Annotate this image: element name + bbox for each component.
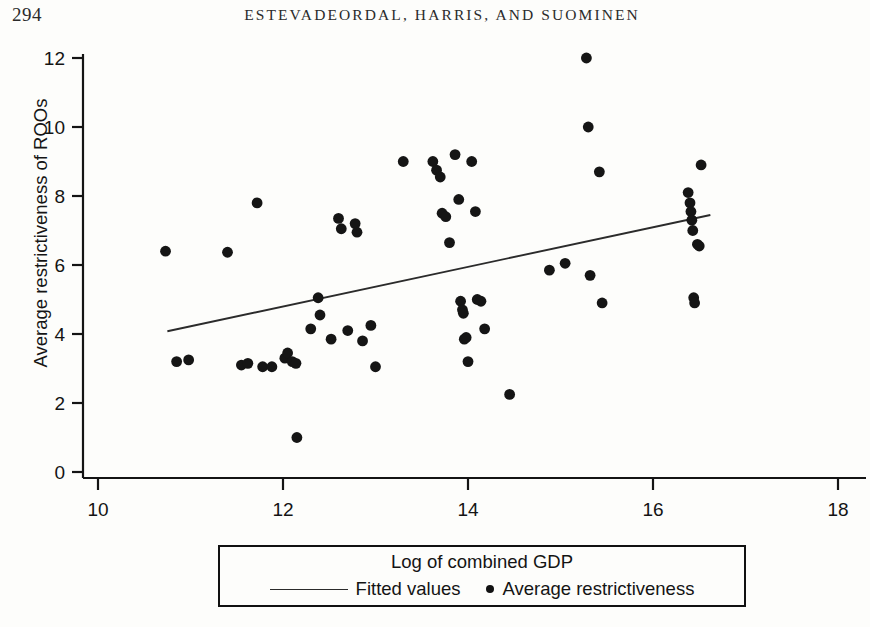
y-tick-label: 12 [44,48,65,69]
data-points-layer [160,53,706,443]
legend-entry-fitted-values: Fitted values [270,578,461,600]
scatter-point [585,270,596,281]
scatter-point [689,298,700,309]
page-header: 294 ESTEVADEORDAL, HARRIS, AND SUOMINEN [0,0,870,34]
scatter-point [470,206,481,217]
scatter-point [444,237,455,248]
y-tick-label: 4 [54,324,65,345]
y-tick-label: 8 [54,186,65,207]
scatter-point [267,361,278,372]
scatter-point [583,122,594,133]
scatter-point [686,215,697,226]
x-tick-label: 14 [457,499,479,520]
scatter-point [257,361,268,372]
legend-label-fitted-values: Fitted values [356,578,461,600]
x-tick-label: 12 [272,499,293,520]
scatter-point [370,361,381,372]
scatter-point [466,156,477,167]
scatter-point [476,296,487,307]
scatter-point [252,198,263,209]
y-tick-label: 6 [54,255,65,276]
legend-label-average-restrictiveness: Average restrictiveness [502,578,694,600]
scatter-point [544,265,555,276]
scatter-point [458,308,469,319]
scatter-point [594,166,605,177]
scatter-point [357,336,368,347]
scatter-plot-svg: 0246810121012141618 [0,30,870,530]
legend-entry-average-restrictiveness: Average restrictiveness [486,578,694,600]
scatter-point [461,332,472,343]
scatter-point [365,320,376,331]
scatter-point [581,53,592,64]
x-tick-label: 18 [827,499,848,520]
scatter-point [333,213,344,224]
scatter-point [242,358,253,369]
scatter-point [683,187,694,198]
scatter-point [183,354,194,365]
dot-swatch-icon [486,585,494,593]
scatter-point [398,156,409,167]
scatter-point [463,356,474,367]
legend-entries: Fitted values Average restrictiveness [220,578,744,600]
running-title: ESTEVADEORDAL, HARRIS, AND SUOMINEN [0,6,870,24]
scatter-point [315,310,326,321]
scatter-point [435,172,446,183]
x-axis-title: Log of combined GDP [220,551,744,573]
scatter-point [687,225,698,236]
legend: Log of combined GDP Fitted values Averag… [218,545,746,607]
fitted-values-line [167,215,710,331]
scatter-point [597,298,608,309]
scatter-point [560,258,571,269]
scatter-point [352,227,363,238]
line-swatch-icon [270,589,348,590]
scatter-point [440,211,451,222]
scatter-point [336,223,347,234]
scatter-point [291,358,302,369]
scatter-point [453,194,464,205]
scatter-point [694,241,705,252]
x-tick-label: 16 [642,499,663,520]
plot-area: 0246810121012141618 Average restrictiven… [0,30,870,530]
y-tick-label: 0 [54,462,65,483]
scatter-point [222,247,233,258]
y-axis-title: Average restrictiveness of ROOs [30,68,52,398]
scatter-point [171,356,182,367]
scatter-point [696,160,707,171]
axis-layer: 0246810121012141618 [44,48,866,520]
scatter-point [326,334,337,345]
y-tick-label: 2 [54,393,65,414]
scatter-point [504,389,515,400]
scatter-point [479,323,490,334]
scatter-point [291,432,302,443]
scatter-point [342,325,353,336]
scatter-point [313,292,324,303]
scatter-point [450,149,461,160]
x-tick-label: 10 [87,499,108,520]
scatter-point [160,246,171,257]
figure-scatter-plot: 0246810121012141618 Average restrictiven… [0,30,870,627]
fitted-line [167,215,710,331]
scatter-point [305,323,316,334]
